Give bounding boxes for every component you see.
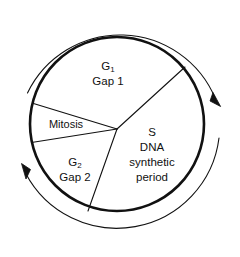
cell-cycle-diagram: G1 Gap 1 Mitosis G2 Gap 2 S DNA syntheti…: [0, 0, 240, 257]
label-mitosis: Mitosis: [49, 118, 84, 130]
label-g1-subscript: 1: [110, 65, 115, 74]
label-g1-name: Gap 1: [92, 75, 123, 87]
cell-cycle-svg: G1 Gap 1 Mitosis G2 Gap 2 S DNA syntheti…: [0, 0, 240, 257]
label-s-line4: period: [136, 171, 168, 183]
label-s-symbol: S: [148, 126, 156, 138]
label-s-line3: synthetic: [129, 156, 175, 168]
label-g2-name: Gap 2: [59, 171, 90, 183]
label-g2-symbol-text: G: [68, 156, 77, 168]
label-g1-symbol-text: G: [101, 60, 110, 72]
label-g2-subscript: 2: [77, 161, 82, 170]
label-s-line2: DNA: [140, 141, 165, 153]
